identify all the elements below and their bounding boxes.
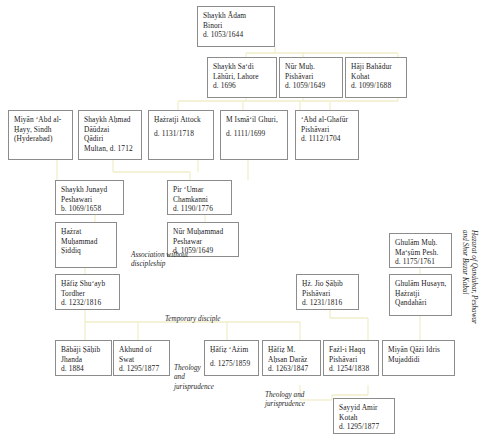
node-line-1: M Ismā‘il Ghuri, xyxy=(226,115,282,125)
node-line-1: Pir ‘Umar xyxy=(173,185,226,195)
node-line-1: Ḥāfiẓ ‘Ażim xyxy=(210,345,253,355)
node-ghulam-husayn-qandahari[interactable]: Ghulām Husayn, Ḥażratji Qandahāri xyxy=(389,274,452,316)
node-line-1: Ghulām Muḥ. xyxy=(395,238,446,248)
node-line-1: Sayyid Amir xyxy=(339,403,389,413)
node-line-2: Ḥayy, Sindh xyxy=(14,125,67,135)
node-line-2: Chamkanni xyxy=(173,195,226,205)
node-line-2: Pishāvari xyxy=(285,72,337,82)
node-line-2: Lāhūri, Lahore xyxy=(213,72,271,82)
node-line-2: Jhanda xyxy=(61,355,106,365)
node-line-1: Miyān Qāżi Idris xyxy=(388,345,449,355)
node-line-1: Shaykh Sa‘di xyxy=(213,62,271,72)
node-haji-bahadur-kohat[interactable]: Hāji Bahādur Kohat d. 1099/1688 xyxy=(345,57,407,98)
node-line-1: ‘Abd al-Ghafūr xyxy=(301,115,353,125)
node-ahmad-daudzai-qadiri[interactable]: Shaykh Aḥmad Dāūdzai Qādiri Multan, d. 1… xyxy=(78,110,142,160)
node-line-4: Multan, d. 1712 xyxy=(84,144,136,154)
node-line-3: d. 1099/1688 xyxy=(351,81,401,91)
node-line-2: Peshawari xyxy=(61,195,118,205)
node-line-3: d. 1059/1649 xyxy=(285,81,337,91)
annotation-theology-and-jurisprudence-right: Theology and jurisprudence xyxy=(265,391,305,410)
node-line-2: Pishāvari xyxy=(329,355,373,365)
node-line-3: d. 1263/1847 xyxy=(268,364,315,374)
side-caption-line-2: and Shor Bazar Kabul xyxy=(461,230,470,324)
node-line-3: d. 1111/1699 xyxy=(226,129,282,139)
node-line-2: Binori xyxy=(203,21,269,31)
node-line-2: Aḥsan Darāz xyxy=(268,355,315,365)
annotation-line-1: Theology xyxy=(174,364,214,373)
node-line-2: Swat xyxy=(119,355,164,365)
node-line-2: Kotah xyxy=(339,413,389,423)
node-line-1: Akhund of xyxy=(119,345,164,355)
node-line-2: Muḥammad xyxy=(61,237,111,247)
node-hafiz-shuayb-tordher[interactable]: Ḥāfiẓ Shu‘ayb Tordher d. 1232/1816 xyxy=(55,274,120,310)
node-fazl-i-haqq-pishavari[interactable]: Fażl-i Haqq Pishāvari d. 1254/1838 xyxy=(323,340,379,376)
node-line-2: Mujaddidi xyxy=(388,355,449,365)
node-miyan-qazi-idris-mujaddidi[interactable]: Miyān Qāżi Idris Mujaddidi xyxy=(382,340,455,376)
annotation-line-3: jurisprudence xyxy=(174,383,214,392)
annotation-theology-and-jurisprudence-left: Theology and jurisprudence xyxy=(174,364,214,392)
node-line-1: Hāji Bahādur xyxy=(351,62,401,72)
node-line-2: Ḥażratji xyxy=(395,289,446,299)
node-pir-umar-chamkanni[interactable]: Pir ‘Umar Chamkanni d. 1190/1776 xyxy=(167,180,232,215)
node-line-2: Peshawar xyxy=(173,237,233,247)
node-line-2: Kohat xyxy=(351,72,401,82)
annotation-line-2: discipleship xyxy=(131,260,188,269)
node-adam-binori[interactable]: Shaykh Ādam Binori d. 1053/1644 xyxy=(197,6,275,47)
node-m-ismail-ghuri[interactable]: M Ismā‘il Ghuri, d. 1111/1699 xyxy=(220,110,288,160)
node-line-1: Shaykh Junayd xyxy=(61,185,118,195)
node-line-3: b. 1069/1658 xyxy=(61,204,118,214)
node-line-3: d. 1295/1877 xyxy=(339,422,389,432)
node-line-1: Ghulām Husayn, xyxy=(395,279,446,289)
annotation-line-1: Theology and xyxy=(265,391,305,400)
node-abd-al-ghafur-pishavari[interactable]: ‘Abd al-Ghafūr Pishāvari d. 1112/1704 xyxy=(295,110,359,160)
node-line-3: d. 1112/1704 xyxy=(301,134,353,144)
node-line-1: Fażl-i Haqq xyxy=(329,345,373,355)
annotation-association-without-discipleship: Association without discipleship xyxy=(131,251,188,270)
node-shaykh-junayd-peshawari[interactable]: Shaykh Junayd Peshawari b. 1069/1658 xyxy=(55,180,124,215)
node-line-3: d. 1175/1761 xyxy=(395,257,446,267)
annotation-line-2: jurisprudence xyxy=(265,400,305,409)
node-line-1: Ḥażrat xyxy=(61,227,111,237)
node-line-2: Pishāvari xyxy=(302,289,353,299)
node-line-2: Pishāvari xyxy=(301,125,353,135)
node-hz-jio-sahib-pishavari[interactable]: Ḥż. Jio Ṣāḥib Pishāvari d. 1231/1816 xyxy=(296,274,359,310)
node-line-3: Ṣiddiq xyxy=(61,246,111,256)
node-line-3: d. 1696 xyxy=(213,81,271,91)
node-line-1: Bābāji Ṣāḥib xyxy=(61,345,106,355)
node-line-3: Qandahāri xyxy=(395,298,446,308)
node-line-1: Shaykh Aḥmad xyxy=(84,115,136,125)
node-abd-al-hayy-sindh[interactable]: Miyān ‘Abd al- Ḥayy, Sindh (Hyderabad) xyxy=(8,110,73,160)
node-line-2: Ma‘ṣūm Pesh. xyxy=(395,248,446,258)
node-babaji-sahib-jhanda[interactable]: Bābāji Ṣāḥib Jhanda d. 1884 xyxy=(55,340,112,376)
node-sadi-lahuri[interactable]: Shaykh Sa‘di Lāhūri, Lahore d. 1696 xyxy=(207,57,277,98)
node-line-3: d. 1190/1776 xyxy=(173,204,226,214)
node-line-3: d. 1884 xyxy=(61,364,106,374)
node-line-2: Dāūdzai xyxy=(84,125,136,135)
node-line-3: d. 1231/1816 xyxy=(302,298,353,308)
node-line-1: Ḥāfiẓ Shu‘ayb xyxy=(61,279,114,289)
node-akhund-of-swat[interactable]: Akhund of Swat d. 1295/1877 xyxy=(113,340,170,376)
node-ghulam-muh-masum-pesh[interactable]: Ghulām Muḥ. Ma‘ṣūm Pesh. d. 1175/1761 xyxy=(389,233,452,268)
node-line-3: d. 1053/1644 xyxy=(203,30,269,40)
node-line-1: Nūr Muḥammad xyxy=(173,227,233,237)
node-line-1: Nūr Muḥ. xyxy=(285,62,337,72)
node-line-1: Shaykh Ādam xyxy=(203,11,269,21)
node-line-1: Ḥż. Jio Ṣāḥib xyxy=(302,279,353,289)
node-line-3: d. 1131/1718 xyxy=(154,129,208,139)
node-hazrat-muhammad-siddiq[interactable]: Ḥażrat Muḥammad Ṣiddiq xyxy=(55,222,117,268)
node-hazratji-attock[interactable]: Ḥażratji Attock d. 1131/1718 xyxy=(148,110,214,160)
node-line-3: d. 1295/1877 xyxy=(119,364,164,374)
node-hafiz-m-ahsan-daraz[interactable]: Ḥāfiẓ M. Aḥsan Darāz d. 1263/1847 xyxy=(262,340,321,376)
node-line-1: Ḥażratji Attock xyxy=(154,115,208,125)
annotation-temporary-disciple: Temporary disciple xyxy=(165,315,220,324)
node-line-3: d. 1275/1859 xyxy=(210,359,253,369)
node-line-3: (Hyderabad) xyxy=(14,134,67,144)
node-line-3: d. 1232/1816 xyxy=(61,298,114,308)
side-caption-line-1: Hazarat of Qandahar, Peshawar xyxy=(469,230,478,324)
node-line-1: Miyān ‘Abd al- xyxy=(14,115,67,125)
annotation-line-1: Temporary disciple xyxy=(165,315,220,324)
node-line-3: d. 1254/1838 xyxy=(329,364,373,374)
node-nur-muh-pishavari[interactable]: Nūr Muḥ. Pishāvari d. 1059/1649 xyxy=(279,57,343,98)
genealogy-chart: Shaykh Ādam Binori d. 1053/1644 Shaykh S… xyxy=(0,0,491,437)
node-sayyid-amir-kotah[interactable]: Sayyid Amir Kotah d. 1295/1877 xyxy=(333,398,395,434)
